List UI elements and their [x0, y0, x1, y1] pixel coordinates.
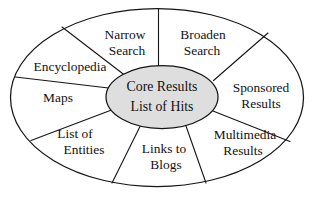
core-label-line2: List of Hits	[131, 99, 194, 114]
segment-label-narrow-search-line2: Search	[109, 43, 146, 58]
segment-label-sponsored-results-line2: Results	[241, 96, 280, 111]
segment-label-broaden-search-line1: Broaden	[180, 27, 226, 42]
segment-label-maps: Maps	[43, 90, 73, 105]
diagram-canvas: Core Results List of Hits Narrow Search …	[0, 0, 314, 198]
segment-label-narrow-search-line1: Narrow	[105, 27, 146, 42]
segment-label-list-of-entities-line2: Entities	[64, 142, 105, 157]
segment-label-encyclopedia: Encyclopedia	[34, 59, 107, 74]
segment-label-multimedia-results-line2: Results	[223, 143, 262, 158]
radial-segment-diagram: Core Results List of Hits Narrow Search …	[0, 0, 314, 198]
segment-label-sponsored-results-line1: Sponsored	[233, 80, 290, 95]
segment-label-list-of-entities-line1: List of	[57, 126, 93, 141]
segment-label-multimedia-results-line1: Multimedia	[214, 127, 277, 142]
segment-label-broaden-search-line2: Search	[184, 43, 221, 58]
core-ellipse	[106, 66, 218, 129]
segment-label-links-to-blogs-line2: Blogs	[150, 157, 181, 172]
core-label-line1: Core Results	[127, 79, 198, 94]
segment-label-links-to-blogs-line1: Links to	[142, 141, 187, 156]
